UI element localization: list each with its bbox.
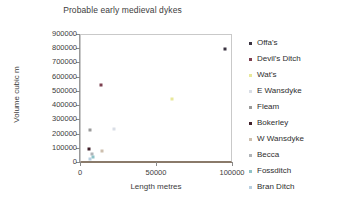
legend-marker-icon	[249, 42, 252, 45]
y-tick-label: 800000	[52, 44, 77, 52]
plot-area	[80, 34, 232, 162]
y-tick-label: 300000	[52, 115, 77, 123]
legend-marker-icon	[249, 138, 252, 141]
data-point	[113, 127, 116, 130]
legend-item[interactable]: Bran Ditch	[249, 179, 339, 195]
legend-item-label: Becca	[257, 150, 279, 160]
y-tick-label: 100000	[52, 144, 77, 152]
legend-item-label: Fossditch	[257, 166, 291, 176]
legend-item-label: W Wansdyke	[257, 134, 304, 144]
legend-item-label: Offa's	[257, 38, 278, 48]
legend-item[interactable]: Wat's	[249, 67, 339, 83]
legend-item-label: Wat's	[257, 70, 276, 80]
data-point	[92, 155, 95, 158]
x-axis-title: Length metres	[80, 182, 232, 191]
x-tick-label: 0	[78, 168, 82, 177]
y-axis-title: Volume cubic m	[12, 45, 21, 145]
legend-marker-icon	[249, 186, 252, 189]
y-tick-label: 500000	[52, 87, 77, 95]
legend-marker-icon	[249, 170, 252, 173]
legend-marker-icon	[249, 74, 252, 77]
y-tick-label: 700000	[52, 58, 77, 66]
data-point	[100, 149, 103, 152]
x-tick-label: 50000	[146, 168, 167, 177]
x-tick	[156, 162, 157, 166]
x-tick	[232, 162, 233, 166]
legend-item-label: Bokerley	[257, 118, 288, 128]
legend-item-label: Bran Ditch	[257, 182, 294, 192]
chart-title: Probable early medieval dykes	[0, 5, 245, 15]
legend-marker-icon	[249, 122, 252, 125]
y-tick-label: 900000	[52, 30, 77, 38]
chart-legend: Offa'sDevil's DitchWat'sE WansdykeFleamB…	[249, 35, 339, 195]
legend-item-label: E Wansdyke	[257, 86, 302, 96]
data-point	[88, 147, 91, 150]
legend-item[interactable]: Fleam	[249, 99, 339, 115]
x-tick-label: 100000	[219, 168, 244, 177]
legend-item[interactable]: Fossditch	[249, 163, 339, 179]
legend-marker-icon	[249, 106, 252, 109]
legend-item[interactable]: Devil's Ditch	[249, 51, 339, 67]
x-tick	[80, 162, 81, 166]
data-point	[89, 157, 92, 160]
legend-item[interactable]: Bokerley	[249, 115, 339, 131]
y-tick-label: 600000	[52, 73, 77, 81]
chart-container: Probable early medieval dykes Volume cub…	[0, 0, 340, 202]
data-point	[89, 128, 92, 131]
legend-item[interactable]: E Wansdyke	[249, 83, 339, 99]
data-point	[171, 98, 174, 101]
data-point	[224, 48, 227, 51]
legend-item-label: Devil's Ditch	[257, 54, 301, 64]
legend-item[interactable]: Offa's	[249, 35, 339, 51]
y-tick-label: 400000	[52, 101, 77, 109]
legend-marker-icon	[249, 58, 252, 61]
legend-marker-icon	[249, 90, 252, 93]
y-tick-label: 200000	[52, 130, 77, 138]
legend-item[interactable]: W Wansdyke	[249, 131, 339, 147]
data-point	[99, 83, 102, 86]
legend-marker-icon	[249, 154, 252, 157]
legend-item[interactable]: Becca	[249, 147, 339, 163]
data-points-layer	[81, 35, 231, 161]
y-tick-label: 0	[73, 158, 77, 166]
legend-item-label: Fleam	[257, 102, 279, 112]
